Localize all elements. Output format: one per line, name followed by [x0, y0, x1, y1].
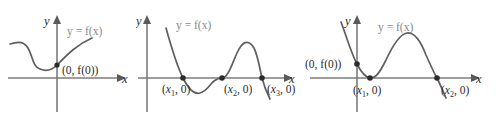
point-root-3-panel-2: [259, 75, 265, 81]
point-root-1-panel-3: [367, 75, 373, 81]
function-label-panel-2: y = f(x): [176, 19, 211, 32]
panel-2: y = f(x) (x1, 0) (x2, 0) (x3, 0) x y: [136, 0, 308, 122]
point-root-2-panel-3: [434, 75, 440, 81]
x-axis-label-panel-2: x: [288, 72, 295, 86]
panel-3: y = f(x) (0, f(0)) (x1, 0) (x2, 0) x y: [305, 0, 497, 122]
y-axis-label-panel-1: y: [42, 14, 50, 28]
y-axis-label-panel-3: y: [343, 14, 351, 28]
y-axis-arrow-icon: [353, 15, 361, 24]
function-label-panel-1: y = f(x): [67, 25, 102, 38]
point-label-root-1-panel-2: (x1, 0): [162, 83, 190, 98]
function-label-panel-3: y = f(x): [378, 21, 413, 34]
point-root-1-panel-2: [180, 75, 186, 81]
figure-strip: y = f(x) (0, f(0)) x y y = f(: [0, 0, 497, 122]
y-axis-panel-2: [143, 15, 151, 112]
point-label-root-2-panel-2: (x2, 0): [224, 83, 252, 98]
y-axis-label-panel-2: y: [136, 14, 142, 28]
x-axis-label-panel-1: x: [121, 72, 128, 86]
y-axis-arrow-icon: [143, 15, 151, 24]
panel-1: y = f(x) (0, f(0)) x y: [0, 0, 140, 122]
y-axis-arrow-icon: [53, 15, 61, 24]
point-root-2-panel-2: [219, 75, 225, 81]
x-axis-panel-3: [310, 74, 480, 82]
point-y-intercept-panel-3: [354, 61, 360, 67]
point-label-y-intercept-panel-1: (0, f(0)): [62, 64, 99, 77]
point-label-y-intercept-panel-3: (0, f(0)): [305, 58, 342, 71]
x-axis-label-panel-3: x: [475, 72, 482, 86]
point-y-intercept-panel-1: [54, 62, 59, 67]
